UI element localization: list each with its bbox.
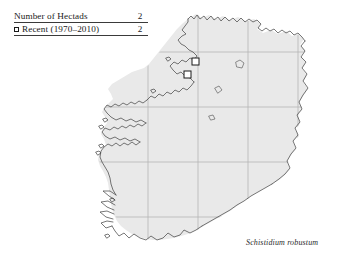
legend-title-label: Number of Hectads <box>14 11 132 21</box>
legend-title-count: 2 <box>132 11 148 21</box>
legend-recent-label: Recent <box>22 24 48 34</box>
species-name-caption: Schistidium robustum <box>246 238 318 247</box>
hectad-record-2[interactable] <box>184 71 191 78</box>
map-canvas <box>0 0 337 264</box>
legend-recent-count: 2 <box>132 24 148 34</box>
ireland-landmass <box>98 14 308 240</box>
legend-recent-period: (1970–2010) <box>51 24 100 34</box>
ireland-distribution-map <box>0 0 337 264</box>
open-square-icon <box>14 27 19 32</box>
legend-recent-row[interactable]: Recent (1970–2010) 2 <box>14 23 148 36</box>
distribution-map-figure: Number of Hectads 2 Recent (1970–2010) 2… <box>0 0 337 264</box>
hectad-record-1[interactable] <box>192 58 199 65</box>
legend-header-row: Number of Hectads 2 <box>14 11 148 23</box>
map-legend: Number of Hectads 2 Recent (1970–2010) 2 <box>14 11 148 36</box>
landmass-group <box>98 14 308 240</box>
